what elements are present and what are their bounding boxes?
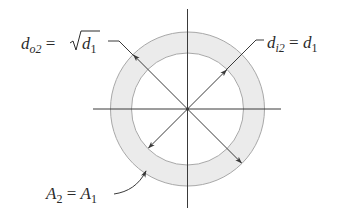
outer-diameter-label: do2 = d1	[21, 31, 100, 56]
svg-text:di2 = d1: di2 = d1	[267, 33, 317, 55]
inner-diameter-label: di2 = d1	[267, 33, 317, 55]
inner-diameter-arrow	[188, 70, 227, 109]
area-leader	[114, 171, 146, 194]
outer-diameter-arrow-lower	[188, 109, 242, 163]
inner-diameter-arrow-lower	[149, 109, 188, 148]
svg-text:do2 =: do2 =	[21, 34, 55, 56]
outer-diameter-leader	[108, 41, 134, 56]
annulus-diagram: do2 = d1 di2 = d1 A2 = A1	[0, 0, 349, 217]
svg-text:d1: d1	[82, 34, 97, 56]
outer-diameter-arrow	[134, 55, 188, 109]
area-label: A2 = A1	[45, 184, 97, 206]
svg-text:A2 = A1: A2 = A1	[45, 184, 97, 206]
